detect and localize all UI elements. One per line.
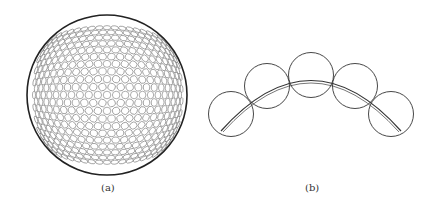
dimple bbox=[98, 130, 106, 137]
dimple bbox=[107, 40, 115, 46]
dimple bbox=[71, 98, 80, 107]
dimple bbox=[88, 82, 98, 92]
dimple bbox=[111, 60, 120, 69]
dimple bbox=[98, 67, 107, 76]
dimple bbox=[103, 123, 111, 130]
dimple bbox=[111, 136, 120, 144]
dimple bbox=[103, 107, 111, 114]
dimple bbox=[115, 114, 125, 124]
dimple bbox=[111, 74, 121, 84]
dimple bbox=[93, 74, 103, 84]
dimple bbox=[64, 98, 72, 107]
dimple bbox=[111, 149, 119, 155]
dimple bbox=[107, 53, 115, 60]
dimple bbox=[107, 30, 115, 35]
dimple bbox=[103, 91, 111, 99]
dimple bbox=[125, 98, 134, 108]
dimple bbox=[95, 149, 103, 155]
dimple bbox=[111, 46, 120, 54]
dimple bbox=[99, 143, 107, 149]
dimple bbox=[111, 122, 120, 131]
dimple bbox=[134, 98, 143, 107]
dimple bbox=[88, 66, 98, 76]
dimple bbox=[98, 114, 107, 123]
dimple bbox=[103, 26, 111, 30]
dimple bbox=[99, 30, 107, 35]
dimple bbox=[111, 106, 121, 116]
arc-curve-outer bbox=[221, 81, 401, 132]
dimple bbox=[99, 155, 107, 160]
dimple bbox=[162, 91, 167, 99]
dimple bbox=[93, 60, 102, 69]
dimple bbox=[122, 91, 129, 99]
dimple bbox=[88, 114, 98, 124]
dimple bbox=[147, 91, 153, 99]
dimple bbox=[103, 47, 111, 53]
dimple bbox=[103, 160, 111, 164]
dimple bbox=[89, 52, 98, 61]
dimple bbox=[71, 83, 80, 92]
dimple bbox=[88, 98, 98, 108]
arc-curve-inner bbox=[223, 83, 399, 132]
dimple bbox=[80, 98, 89, 108]
dimple bbox=[115, 129, 124, 138]
dimple bbox=[103, 75, 111, 82]
dimple bbox=[49, 98, 55, 106]
dimple bbox=[103, 137, 111, 143]
dimple bbox=[89, 129, 98, 138]
arc-circle-3 bbox=[289, 53, 334, 98]
dimple bbox=[93, 106, 103, 116]
dimple bbox=[165, 84, 171, 92]
dimple bbox=[111, 160, 119, 165]
dimple bbox=[115, 52, 124, 61]
dimple bbox=[107, 114, 116, 123]
dimple bbox=[60, 91, 66, 99]
dimple bbox=[94, 136, 103, 144]
arc-circle-5 bbox=[369, 92, 414, 137]
sphere-panel-a bbox=[27, 15, 187, 175]
dimple bbox=[94, 46, 103, 54]
sphere-outline bbox=[27, 15, 187, 175]
dimple bbox=[143, 98, 151, 107]
dimple bbox=[85, 91, 92, 99]
dimple bbox=[103, 60, 111, 67]
dimple bbox=[99, 40, 107, 46]
dimple bbox=[115, 40, 124, 47]
dimple bbox=[64, 83, 72, 92]
dimple bbox=[32, 78, 36, 86]
dimple bbox=[73, 157, 81, 163]
dimple bbox=[97, 98, 107, 108]
dimple bbox=[151, 98, 158, 106]
dimple bbox=[56, 83, 63, 91]
dimple bbox=[125, 82, 134, 92]
panel-a-label: (a) bbox=[101, 182, 115, 193]
dimple bbox=[112, 91, 120, 99]
dimple bbox=[47, 91, 52, 99]
dimple bbox=[151, 83, 158, 91]
dimple bbox=[95, 25, 103, 30]
figure-canvas bbox=[0, 0, 433, 207]
dimple bbox=[107, 67, 116, 76]
dimple bbox=[95, 160, 103, 165]
dimple bbox=[41, 91, 46, 99]
dimple bbox=[107, 143, 115, 149]
dimple bbox=[90, 143, 99, 150]
arc-circle-1 bbox=[209, 92, 254, 137]
arc-panel-b bbox=[209, 53, 414, 137]
dimple bbox=[111, 35, 119, 41]
dimple bbox=[155, 91, 161, 99]
dimple bbox=[90, 40, 99, 47]
dimple bbox=[49, 84, 55, 92]
dimple bbox=[80, 82, 89, 92]
dimple bbox=[158, 98, 164, 106]
dimple bbox=[95, 35, 103, 41]
dimple bbox=[97, 82, 107, 92]
dimple bbox=[68, 91, 75, 99]
dimple bbox=[143, 83, 151, 92]
dimple bbox=[76, 91, 83, 99]
sphere-dimples bbox=[32, 25, 183, 164]
dimple bbox=[107, 130, 115, 137]
dimple bbox=[134, 83, 143, 92]
dimple bbox=[111, 25, 119, 30]
dimple bbox=[115, 143, 124, 150]
